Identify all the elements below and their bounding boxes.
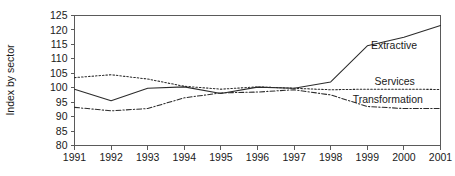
y-tick-label: 115 bbox=[51, 38, 68, 50]
x-tick-label: 1991 bbox=[63, 151, 87, 163]
line-chart: 80859095100105110115120125 1991199219931… bbox=[0, 0, 455, 176]
series-label-transformation: Transformation bbox=[353, 93, 423, 105]
x-tick-label: 1992 bbox=[99, 151, 123, 163]
x-tick-label: 1994 bbox=[173, 151, 197, 163]
y-tick-label: 95 bbox=[56, 96, 68, 108]
y-axis-title: Index by sector bbox=[4, 44, 16, 116]
y-tick-label: 105 bbox=[50, 67, 68, 79]
x-axis-tick-labels: 1991199219931994199519961997199819992000… bbox=[63, 151, 453, 163]
x-tick-label: 2001 bbox=[429, 151, 453, 163]
x-tick-label: 1993 bbox=[136, 151, 160, 163]
x-tick-label: 1998 bbox=[319, 151, 343, 163]
y-tick-label: 100 bbox=[50, 81, 68, 93]
y-tick-label: 125 bbox=[50, 9, 68, 21]
x-tick-label: 1997 bbox=[282, 151, 306, 163]
y-tick-label: 90 bbox=[56, 110, 68, 122]
series-label-extractive: Extractive bbox=[371, 39, 417, 51]
y-tick-label: 80 bbox=[56, 139, 68, 151]
x-tick-label: 1999 bbox=[356, 151, 380, 163]
x-tick-label: 1996 bbox=[246, 151, 270, 163]
y-tick-label: 120 bbox=[50, 24, 68, 36]
y-tick-label: 110 bbox=[51, 52, 68, 64]
x-tick-label: 1995 bbox=[209, 151, 233, 163]
y-tick-label: 85 bbox=[56, 125, 68, 137]
series-label-services: Services bbox=[375, 75, 415, 87]
x-tick-label: 2000 bbox=[392, 151, 416, 163]
chart-container: 80859095100105110115120125 1991199219931… bbox=[0, 0, 455, 176]
